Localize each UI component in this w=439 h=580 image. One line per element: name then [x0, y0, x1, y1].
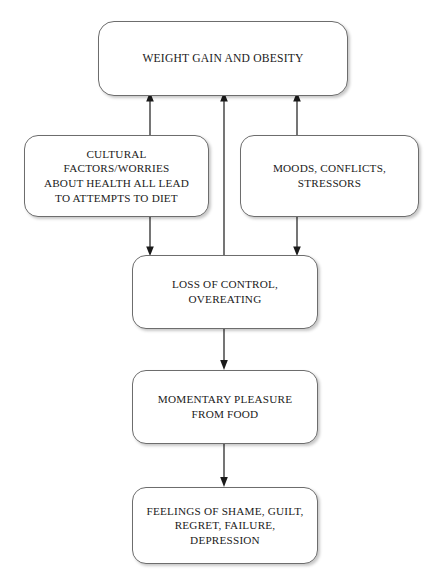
node-label: WEIGHT GAIN AND OBESITY: [136, 51, 309, 66]
node-momentary-pleasure-from-food: MOMENTARY PLEASURE FROM FOOD: [132, 370, 318, 444]
node-loss-of-control-overeating: LOSS OF CONTROL, OVEREATING: [132, 255, 318, 329]
arrow-loss-of-control-to-weight-gain: [214, 88, 234, 260]
node-label: MOODS, CONFLICTS, STRESSORS: [267, 161, 392, 190]
arrow-cultural-to-loss-of-control: [140, 212, 160, 260]
diagram-canvas: WEIGHT GAIN AND OBESITY CULTURAL FACTORS…: [0, 0, 439, 580]
arrow-moods-to-loss-of-control: [287, 212, 307, 260]
node-feelings-of-shame-guilt: FEELINGS OF SHAME, GUILT, REGRET, FAILUR…: [132, 487, 318, 564]
arrow-loss-of-control-to-momentary-pleasure: [214, 327, 234, 373]
node-cultural-factors: CULTURAL FACTORS/WORRIES ABOUT HEALTH AL…: [24, 135, 209, 217]
node-label: LOSS OF CONTROL, OVEREATING: [166, 277, 284, 306]
arrow-momentary-pleasure-to-feelings: [214, 442, 234, 490]
node-label: MOMENTARY PLEASURE FROM FOOD: [152, 392, 298, 421]
node-weight-gain-and-obesity: WEIGHT GAIN AND OBESITY: [98, 21, 348, 96]
node-moods-conflicts-stressors: MOODS, CONFLICTS, STRESSORS: [240, 135, 419, 217]
node-label: FEELINGS OF SHAME, GUILT, REGRET, FAILUR…: [141, 504, 310, 548]
node-label: CULTURAL FACTORS/WORRIES ABOUT HEALTH AL…: [38, 147, 195, 205]
